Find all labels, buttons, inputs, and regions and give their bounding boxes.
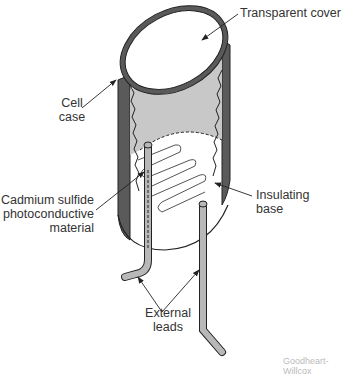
label-cell-case: Cell case bbox=[52, 96, 92, 124]
label-insulating-base: Insulating base bbox=[256, 188, 310, 216]
watermark: Goodheart-Willcox bbox=[283, 356, 353, 376]
label-transparent-cover: Transparent cover bbox=[240, 6, 341, 20]
label-external-leads: External leads bbox=[140, 306, 196, 334]
label-cds-material: Cadmium sulfide photoconductive material bbox=[0, 193, 94, 235]
